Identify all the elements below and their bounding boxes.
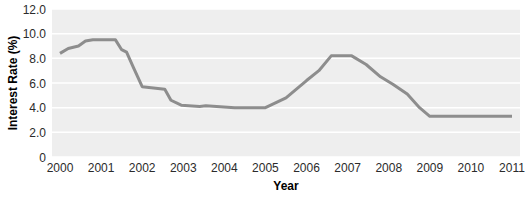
x-tick-label: 2008 — [375, 161, 402, 175]
x-tick-label: 2002 — [129, 161, 156, 175]
x-axis-title: Year — [273, 179, 299, 193]
x-tick-label: 2007 — [334, 161, 361, 175]
y-tick-label: 4.0 — [29, 101, 46, 115]
y-tick-label: 6.0 — [29, 77, 46, 91]
x-tick-label: 2006 — [293, 161, 320, 175]
x-tick-label: 2000 — [47, 161, 74, 175]
x-tick-label: 2011 — [499, 161, 525, 175]
chart-canvas: 02.04.06.08.010.012.0 200020012002200320… — [0, 0, 530, 207]
interest-rate-chart: 02.04.06.08.010.012.0 200020012002200320… — [0, 0, 530, 207]
y-tick-label: 8.0 — [29, 52, 46, 66]
y-tick-label: 12.0 — [23, 3, 47, 17]
y-axis-tick-labels: 02.04.06.08.010.012.0 — [23, 3, 47, 165]
x-axis-tick-labels: 2000200120022003200420052006200720082009… — [47, 161, 526, 175]
y-axis-title: Interest Rate (%) — [6, 36, 20, 131]
y-tick-label: 2.0 — [29, 126, 46, 140]
x-tick-label: 2005 — [252, 161, 279, 175]
x-tick-label: 2003 — [170, 161, 197, 175]
y-tick-label: 0 — [39, 151, 46, 165]
x-tick-label: 2001 — [88, 161, 115, 175]
x-tick-label: 2010 — [458, 161, 485, 175]
x-tick-label: 2004 — [211, 161, 238, 175]
y-tick-label: 10.0 — [23, 27, 47, 41]
x-tick-label: 2009 — [416, 161, 443, 175]
